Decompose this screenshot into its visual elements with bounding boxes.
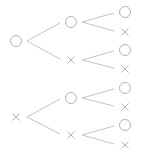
circle-icon: [120, 83, 131, 94]
cross-icon: [122, 104, 129, 111]
circle-icon: [120, 45, 131, 56]
branch-line: [82, 135, 114, 144]
circle-icon: [11, 36, 22, 47]
cross-icon: [68, 132, 75, 139]
branch-line: [27, 99, 60, 117]
tree-nodes: [11, 7, 131, 149]
cross-icon: [122, 142, 129, 149]
branch-line: [82, 98, 114, 106]
branch-line: [27, 41, 60, 59]
circle-icon: [120, 7, 131, 18]
branch-line: [27, 117, 60, 134]
circle-icon: [66, 93, 77, 104]
circle-icon: [120, 120, 131, 131]
cross-icon: [122, 66, 129, 73]
tree-diagram: [0, 0, 142, 153]
cross-icon: [122, 29, 129, 36]
cross-icon: [68, 57, 75, 64]
cross-icon: [13, 114, 20, 121]
branch-line: [27, 23, 60, 41]
branch-line: [82, 22, 114, 31]
branch-line: [82, 60, 114, 68]
circle-icon: [66, 17, 77, 28]
branch-line: [82, 89, 114, 98]
branch-line: [82, 13, 114, 22]
branch-lines: [27, 13, 114, 144]
branch-line: [82, 51, 114, 60]
branch-line: [82, 126, 114, 135]
